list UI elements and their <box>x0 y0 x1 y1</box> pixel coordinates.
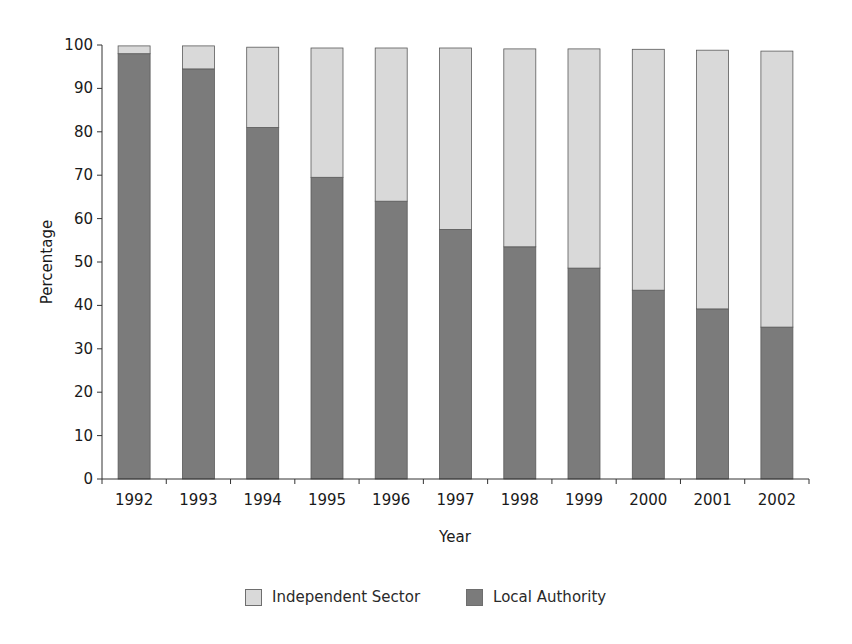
bar-local-authority-2002 <box>761 327 793 479</box>
y-tick-label: 100 <box>64 36 93 54</box>
legend-item-independent-sector: Independent Sector <box>245 588 420 606</box>
stacked-bar-chart: 0102030405060708090100 19921993199419951… <box>0 0 852 644</box>
y-tick-label: 40 <box>74 296 93 314</box>
bar-local-authority-1994 <box>247 128 279 480</box>
x-tick-label: 1993 <box>179 491 217 509</box>
x-tick-label: 2000 <box>629 491 667 509</box>
y-tick-label: 30 <box>74 340 93 358</box>
legend-label-independent-sector: Independent Sector <box>272 588 420 606</box>
x-tick-label: 2001 <box>694 491 732 509</box>
bar-independent-sector-1997 <box>440 48 472 229</box>
legend-label-local-authority: Local Authority <box>493 588 606 606</box>
y-tick-label: 90 <box>74 79 93 97</box>
bar-local-authority-1997 <box>440 230 472 480</box>
x-tick-label: 1994 <box>244 491 282 509</box>
bar-local-authority-1996 <box>375 201 407 479</box>
bar-independent-sector-2000 <box>632 49 664 290</box>
bar-local-authority-1998 <box>504 247 536 479</box>
x-tick-label: 2002 <box>758 491 796 509</box>
bar-independent-sector-1995 <box>311 48 343 177</box>
bar-independent-sector-1998 <box>504 49 536 247</box>
bar-independent-sector-1992 <box>118 46 150 54</box>
bars-group <box>118 46 793 479</box>
bar-local-authority-2001 <box>697 309 729 479</box>
y-tick-label: 10 <box>74 427 93 445</box>
bar-local-authority-1999 <box>568 268 600 479</box>
bar-independent-sector-1996 <box>375 48 407 201</box>
bar-local-authority-1995 <box>311 177 343 479</box>
bar-independent-sector-2001 <box>697 50 729 309</box>
bar-independent-sector-2002 <box>761 51 793 327</box>
y-tick-label: 60 <box>74 210 93 228</box>
bar-local-authority-1993 <box>182 69 214 479</box>
x-tick-label: 1999 <box>565 491 603 509</box>
independent-sector-swatch <box>245 589 262 606</box>
local-authority-swatch <box>466 589 483 606</box>
legend: Independent Sector Local Authority <box>245 588 652 606</box>
bar-independent-sector-1993 <box>182 46 214 69</box>
y-ticks: 0102030405060708090100 <box>64 36 102 488</box>
bar-local-authority-1992 <box>118 54 150 479</box>
y-tick-label: 20 <box>74 383 93 401</box>
x-tick-label: 1998 <box>501 491 539 509</box>
x-tick-label: 1997 <box>436 491 474 509</box>
y-axis-title: Percentage <box>38 220 56 304</box>
y-tick-label: 0 <box>83 470 93 488</box>
y-tick-label: 80 <box>74 123 93 141</box>
legend-item-local-authority: Local Authority <box>466 588 606 606</box>
x-axis-title: Year <box>438 528 472 546</box>
x-tick-label: 1992 <box>115 491 153 509</box>
x-tick-label: 1995 <box>308 491 346 509</box>
bar-independent-sector-1994 <box>247 47 279 127</box>
y-tick-label: 50 <box>74 253 93 271</box>
bar-independent-sector-1999 <box>568 49 600 268</box>
x-ticks: 1992199319941995199619971998199920002001… <box>102 479 809 509</box>
y-tick-label: 70 <box>74 166 93 184</box>
bar-local-authority-2000 <box>632 290 664 479</box>
x-tick-label: 1996 <box>372 491 410 509</box>
